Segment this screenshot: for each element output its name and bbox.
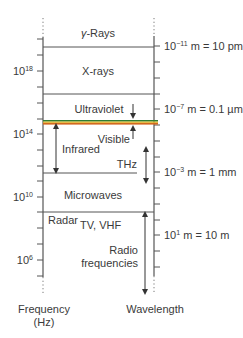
- freq-label-10-18: 1018: [13, 65, 33, 77]
- freq-label-10-6: 106: [17, 254, 33, 266]
- wl-label-10m: 101 m = 10 m: [164, 229, 229, 241]
- label-thz: THz: [117, 158, 137, 170]
- frequency-axis: [37, 18, 43, 294]
- label-gamma-rays: γ-Rays: [81, 27, 116, 39]
- label-radio-line2: frequencies: [81, 257, 138, 269]
- frequency-axis-unit: (Hz): [34, 316, 55, 328]
- wl-label-1mm: 10−3 m = 1 mm: [164, 166, 237, 178]
- label-tv-vhf: TV, VHF: [80, 219, 121, 231]
- wl-label-0-1um: 10−7 m = 0.1 µm: [164, 103, 243, 115]
- wavelength-axis: [154, 18, 160, 293]
- em-spectrum-diagram: γ-Rays X-rays Ultraviolet Visible Infrar…: [0, 0, 243, 338]
- label-radio-line1: Radio: [109, 244, 138, 256]
- label-microwaves: Microwaves: [64, 189, 123, 201]
- wl-label-10pm: 10−11 m = 10 pm: [164, 40, 243, 52]
- label-visible: Visible: [98, 133, 130, 145]
- label-radar: Radar: [48, 214, 78, 226]
- label-ultraviolet: Ultraviolet: [75, 103, 124, 115]
- wavelength-axis-title: Wavelength: [126, 303, 184, 315]
- frequency-axis-title: Frequency: [18, 303, 70, 315]
- visible-band: [43, 120, 158, 125]
- label-x-rays: X-rays: [82, 65, 114, 77]
- freq-label-10-14: 1014: [13, 128, 33, 140]
- label-infrared: Infrared: [62, 143, 100, 155]
- freq-label-10-10: 1010: [13, 191, 33, 203]
